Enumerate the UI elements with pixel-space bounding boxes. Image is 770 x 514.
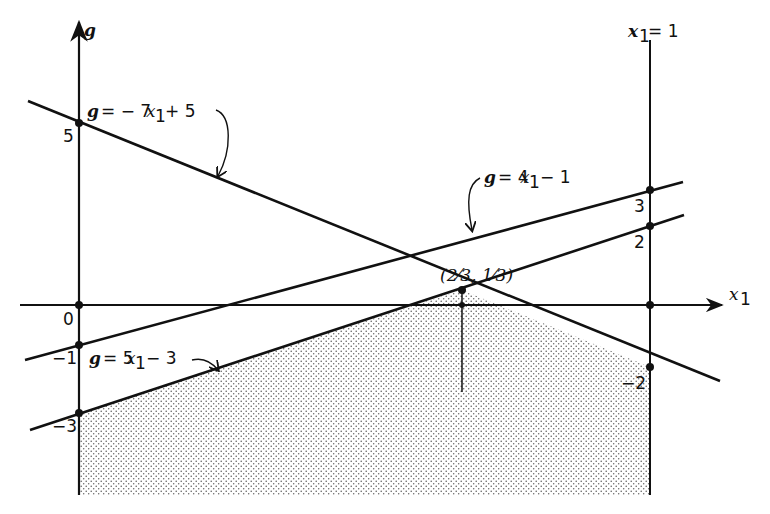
piecewise-linear-diagram: g x 1 x 1 = 1 g = − 7 x 1 + 5 g = 4 x 1 … [0,0,770,514]
x1-axis-label: x 1 [729,284,751,309]
tick-label-right-minus2: −2 [621,373,646,393]
callout-arrow-line-a [216,110,228,176]
tick-label-0: 0 [63,309,74,329]
tick-label-minus3: −3 [52,416,77,436]
tick-label-right-3: 3 [634,196,645,216]
svg-text:x: x [729,284,739,304]
equation-label-line-b: g = 4 x 1 − 1 [484,167,570,192]
svg-text:g: g [484,167,496,187]
equation-label-line-c: g = 5 x 1 − 3 [89,348,176,373]
tick-label-5: 5 [63,126,74,146]
svg-text:x: x [627,21,639,41]
svg-text:= − 7: = − 7 [101,101,151,121]
svg-text:1: 1 [529,172,540,192]
vertex-label: (2⁄3, 1⁄3) [440,265,513,285]
tick-label-minus1: −1 [52,348,77,368]
svg-text:= 1: = 1 [648,21,678,41]
svg-text:g: g [87,101,99,121]
svg-text:+ 5: + 5 [165,101,195,121]
callout-arrow-line-b [469,178,480,230]
svg-text:g: g [89,348,101,368]
x1-equals-1-label: x 1 = 1 [627,21,678,46]
equation-label-line-a: g = − 7 x 1 + 5 [87,101,195,126]
svg-text:− 1: − 1 [540,167,570,187]
svg-text:1: 1 [740,289,751,309]
tick-label-right-2: 2 [634,232,645,252]
svg-text:1: 1 [135,353,146,373]
svg-text:− 3: − 3 [146,348,176,368]
g-axis-label: g [84,20,96,40]
